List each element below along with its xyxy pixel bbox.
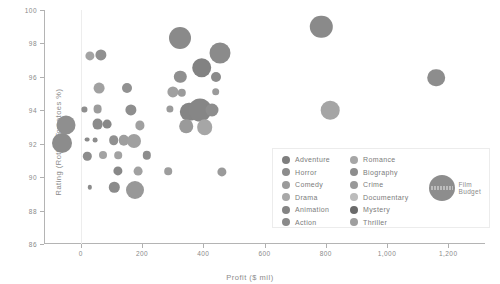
legend-item-label: Crime xyxy=(363,181,383,188)
x-tick xyxy=(448,244,449,248)
data-bubble xyxy=(134,167,143,176)
x-tick-label: 400 xyxy=(197,250,209,257)
legend-item-horror[interactable]: Horror xyxy=(282,167,330,179)
x-tick xyxy=(387,244,388,248)
data-bubble xyxy=(321,101,340,120)
data-bubble xyxy=(109,182,119,192)
legend: AdventureHorrorComedyDramaAnimationActio… xyxy=(272,148,490,228)
legend-item-label: Drama xyxy=(295,194,318,201)
data-bubble xyxy=(310,16,332,38)
legend-item-label: Animation xyxy=(295,206,329,213)
size-legend: Film Budget xyxy=(429,175,481,201)
data-bubble xyxy=(167,86,178,97)
legend-swatch-icon xyxy=(282,193,290,201)
legend-item-label: Horror xyxy=(295,169,317,176)
legend-swatch-icon xyxy=(350,193,358,201)
y-tick xyxy=(40,177,44,178)
legend-item-documentary[interactable]: Documentary xyxy=(350,192,408,204)
data-bubble xyxy=(83,152,91,160)
legend-swatch-icon xyxy=(350,156,358,164)
data-bubble xyxy=(206,104,219,117)
y-tick xyxy=(40,43,44,44)
data-bubble xyxy=(92,119,103,130)
legend-item-animation[interactable]: Animation xyxy=(282,204,330,216)
data-bubble xyxy=(126,181,144,199)
x-tick xyxy=(142,244,143,248)
zero-reference-line xyxy=(81,10,82,244)
size-legend-hatch xyxy=(431,186,453,190)
legend-swatch-icon xyxy=(350,206,358,214)
legend-column: RomanceBiographyCrimeDocumentaryMysteryT… xyxy=(350,154,408,228)
data-bubble xyxy=(180,119,194,133)
y-tick-label: 92 xyxy=(29,140,37,147)
legend-swatch-icon xyxy=(282,218,290,226)
data-bubble xyxy=(109,136,119,146)
bubble-chart: Rating (Rotten Tomatoes %) 8688909294969… xyxy=(0,0,500,284)
y-tick-label: 96 xyxy=(29,73,37,80)
y-tick-label: 86 xyxy=(29,241,37,248)
data-bubble xyxy=(178,89,186,97)
y-tick xyxy=(40,144,44,145)
data-bubble xyxy=(122,83,132,93)
legend-item-label: Comedy xyxy=(295,181,323,188)
legend-item-biography[interactable]: Biography xyxy=(350,167,408,179)
y-tick-label: 98 xyxy=(29,40,37,47)
legend-item-label: Adventure xyxy=(295,156,330,163)
legend-item-label: Thriller xyxy=(363,219,387,226)
data-bubble xyxy=(52,133,72,153)
data-bubble xyxy=(99,151,107,159)
data-bubble xyxy=(142,151,150,159)
legend-swatch-icon xyxy=(350,181,358,189)
legend-item-romance[interactable]: Romance xyxy=(350,154,408,166)
x-axis-title: Profit ($ mil) xyxy=(0,273,500,282)
legend-swatch-icon xyxy=(282,206,290,214)
data-bubble xyxy=(169,27,191,49)
data-bubble xyxy=(210,42,231,63)
y-tick-label: 88 xyxy=(29,207,37,214)
y-tick-label: 94 xyxy=(29,107,37,114)
y-tick xyxy=(40,211,44,212)
size-legend-bubble xyxy=(429,175,455,201)
x-tick xyxy=(203,244,204,248)
y-tick xyxy=(40,110,44,111)
y-axis-line xyxy=(44,10,45,244)
legend-swatch-icon xyxy=(282,156,290,164)
data-bubble xyxy=(166,105,173,112)
data-bubble xyxy=(174,71,186,83)
legend-swatch-icon xyxy=(282,181,290,189)
size-legend-line2: Budget xyxy=(459,188,481,196)
data-bubble xyxy=(95,50,106,61)
legend-item-mystery[interactable]: Mystery xyxy=(350,204,408,216)
y-tick-label: 90 xyxy=(29,174,37,181)
legend-item-thriller[interactable]: Thriller xyxy=(350,217,408,229)
data-bubble xyxy=(82,107,87,112)
data-bubble xyxy=(57,116,76,135)
data-bubble xyxy=(114,152,122,160)
y-tick xyxy=(40,244,44,245)
legend-item-drama[interactable]: Drama xyxy=(282,192,330,204)
legend-item-crime[interactable]: Crime xyxy=(350,179,408,191)
data-bubble xyxy=(192,58,212,78)
x-tick xyxy=(81,244,82,248)
legend-swatch-icon xyxy=(350,168,358,176)
data-bubble xyxy=(113,167,122,176)
data-bubble xyxy=(427,69,445,87)
legend-swatch-icon xyxy=(282,168,290,176)
data-bubble xyxy=(85,137,90,142)
data-bubble xyxy=(197,119,213,135)
data-bubble xyxy=(217,168,226,177)
data-bubble xyxy=(85,51,94,60)
x-tick-label: 600 xyxy=(258,250,270,257)
x-tick-label: 1,200 xyxy=(439,250,458,257)
data-bubble xyxy=(102,120,111,129)
legend-item-comedy[interactable]: Comedy xyxy=(282,179,330,191)
data-bubble xyxy=(127,134,141,148)
data-bubble xyxy=(93,138,98,143)
x-tick-label: 1,000 xyxy=(378,250,397,257)
legend-item-adventure[interactable]: Adventure xyxy=(282,154,330,166)
data-bubble xyxy=(212,88,220,96)
x-tick-label: 200 xyxy=(136,250,148,257)
y-tick xyxy=(40,77,44,78)
legend-item-label: Documentary xyxy=(363,194,408,201)
legend-item-action[interactable]: Action xyxy=(282,217,330,229)
